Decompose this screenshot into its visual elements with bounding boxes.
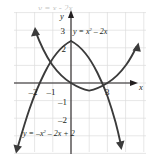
x-axis-arrowhead	[130, 80, 138, 86]
y-tick-label-3: 3	[61, 26, 66, 36]
coordinate-plane-svg: x y –2 –1 3 3 2 –1 –2 y = x2 – 2x y = –x…	[0, 8, 150, 157]
upward-parabola-right-arrowhead	[133, 43, 141, 52]
y-tick-label-2: 2	[62, 44, 67, 54]
upward-parabola-left-arrowhead	[31, 27, 40, 37]
x-tick-label-3: 3	[105, 87, 110, 97]
curve-upward-parabola	[35, 30, 136, 90]
x-axis-label: x	[138, 82, 143, 92]
equation-label-downward-parabola: y = –x2 – 2x + 2	[22, 129, 75, 138]
y-axis-arrowhead	[68, 10, 74, 18]
equation-upward-prefix: y = x	[72, 27, 90, 36]
y-tick-label--1: –1	[57, 97, 67, 107]
downward-parabola-left-arrowhead	[14, 145, 23, 154]
curve-downward-parabola-right	[71, 41, 121, 143]
x-tick-label--2: –2	[28, 87, 38, 97]
graph-canvas: x y –2 –1 3 3 2 –1 –2 y = x2 – 2x y = –x…	[0, 8, 150, 157]
y-axis-label: y	[59, 11, 64, 21]
x-tick-label--1: –1	[46, 87, 56, 97]
y-tick-label--2: –2	[57, 115, 67, 125]
downward-parabola-right-arrowhead	[116, 141, 125, 151]
equation-downward-suffix: – 2x + 2	[46, 129, 75, 138]
equation-label-upward-parabola: y = x2 – 2x	[72, 27, 108, 36]
parabolas-figure: y = x - 2x	[0, 0, 150, 157]
equation-upward-suffix: – 2x	[92, 27, 108, 36]
equation-downward-prefix: y = –x	[22, 129, 44, 138]
